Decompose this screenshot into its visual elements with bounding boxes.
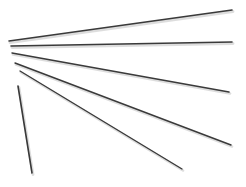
stick-body (18, 86, 32, 173)
sticks-scene (0, 0, 246, 187)
stick (11, 42, 233, 48)
stick-body (9, 10, 232, 41)
sticks-illustration (0, 0, 246, 187)
stick-shadow (21, 73, 183, 171)
stick-shadow (10, 12, 233, 43)
stick (20, 71, 183, 171)
stick (9, 10, 233, 43)
stick (18, 86, 33, 175)
stick-body (20, 71, 182, 169)
